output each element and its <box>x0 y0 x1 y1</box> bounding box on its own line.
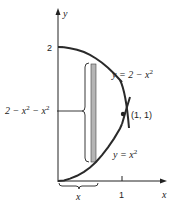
upper-curve-label-base: y = 2 − x <box>111 69 150 80</box>
strip-height-label-a: 2 − x <box>5 105 27 116</box>
upper-curve-label: y = 2 − x2 <box>111 68 153 80</box>
x-axis-arrow-icon <box>160 179 167 184</box>
strip-height-label: 2 − x2 − x2 <box>5 104 50 116</box>
region-between-curves-diagram: y 2 1 x x y = 2 − x2 y = x2 (1, 1) 2 − x… <box>0 0 174 210</box>
shaded-strip <box>91 64 96 162</box>
upper-curve-label-exp: 2 <box>149 68 153 76</box>
strip-height-brace <box>82 63 89 162</box>
intersection-point <box>121 112 125 116</box>
intersection-label: (1, 1) <box>131 110 152 120</box>
y-tick-label-2: 2 <box>47 43 52 53</box>
lower-curve-label-base: y = x <box>112 149 134 160</box>
strip-x-brace <box>59 183 98 189</box>
strip-x-label: x <box>75 191 81 202</box>
lower-curve-label: y = x2 <box>112 148 138 160</box>
strip-height-label-exp2: 2 <box>46 104 50 112</box>
y-axis-label: y <box>62 8 68 19</box>
strip-height-label-b: − x <box>30 105 47 116</box>
y-axis-arrow-icon <box>56 8 61 15</box>
x-tick-label-1: 1 <box>119 190 124 200</box>
x-axis-label: x <box>161 189 167 200</box>
lower-curve-label-exp: 2 <box>134 148 138 156</box>
